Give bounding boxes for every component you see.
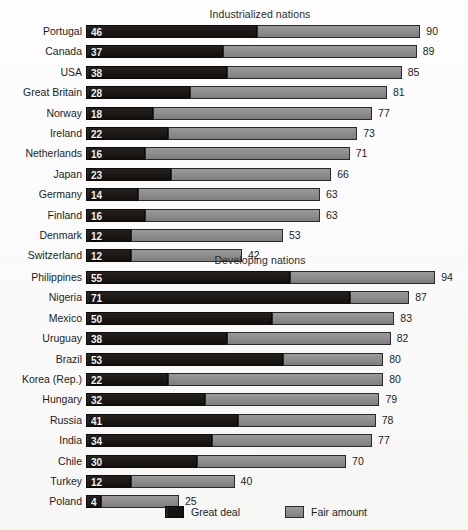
bar-segment-fair-amount xyxy=(283,353,383,366)
bar-segment-fair-amount xyxy=(223,45,416,58)
chart-row: USA3885 xyxy=(0,66,468,79)
bar-value-great-deal: 53 xyxy=(91,354,102,367)
row-label-germany: Germany xyxy=(0,188,82,201)
bar-value-great-deal: 37 xyxy=(91,46,102,59)
bar-segment-great-deal: 14 xyxy=(86,188,138,201)
legend-item-fair-amount: Fair amount xyxy=(285,505,367,519)
bar-value-great-deal: 28 xyxy=(91,87,102,100)
bar-segment-great-deal: 34 xyxy=(86,434,212,447)
bar-value-great-deal: 12 xyxy=(91,230,102,243)
legend-label-fair-amount: Fair amount xyxy=(311,506,367,518)
bar-segment-fair-amount xyxy=(212,434,372,447)
bar-segment-fair-amount xyxy=(197,455,346,468)
bar-total-value: 70 xyxy=(352,455,364,468)
bar-segment-fair-amount xyxy=(205,393,380,406)
bar-stack: 32 xyxy=(86,393,379,406)
bar-stack: 18 xyxy=(86,107,372,120)
bar-segment-great-deal: 55 xyxy=(86,271,290,284)
bar-stack: 22 xyxy=(86,373,383,386)
bar-segment-great-deal: 53 xyxy=(86,353,283,366)
bar-segment-fair-amount xyxy=(145,209,320,222)
stacked-bar-chart: Industrialized nationsPortugal4690Canada… xyxy=(0,0,468,530)
chart-row: Great Britain2881 xyxy=(0,86,468,99)
bar-stack: 46 xyxy=(86,25,420,38)
bar-total-value: 40 xyxy=(241,475,253,488)
bar-total-value: 66 xyxy=(337,168,349,181)
bar-total-value: 83 xyxy=(400,312,412,325)
row-label-chile: Chile xyxy=(0,455,82,468)
bar-total-value: 81 xyxy=(393,86,405,99)
chart-row: Brazil5380 xyxy=(0,353,468,366)
legend-swatch-great-deal-icon xyxy=(165,506,184,518)
row-label-switzerland: Switzerland xyxy=(0,249,82,262)
row-label-brazil: Brazil xyxy=(0,353,82,366)
bar-value-great-deal: 46 xyxy=(91,26,102,39)
bar-segment-great-deal: 22 xyxy=(86,373,168,386)
bar-value-great-deal: 30 xyxy=(91,456,102,469)
bar-segment-fair-amount xyxy=(131,475,235,488)
bar-segment-great-deal: 38 xyxy=(86,332,227,345)
bar-segment-great-deal: 50 xyxy=(86,312,272,325)
bar-segment-fair-amount xyxy=(145,147,349,160)
bar-total-value: 94 xyxy=(441,271,453,284)
bar-stack: 38 xyxy=(86,332,391,345)
bar-segment-fair-amount xyxy=(171,168,331,181)
bar-stack: 22 xyxy=(86,127,357,140)
chart-row: Korea (Rep.)2280 xyxy=(0,373,468,386)
row-label-mexico: Mexico xyxy=(0,312,82,325)
row-label-portugal: Portugal xyxy=(0,25,82,38)
row-label-great-britain: Great Britain xyxy=(0,86,82,99)
bar-segment-fair-amount xyxy=(272,312,395,325)
bar-stack: 50 xyxy=(86,312,394,325)
group-title-developing: Developing nations xyxy=(86,254,434,266)
bar-stack: 12 xyxy=(86,229,283,242)
bar-value-great-deal: 71 xyxy=(91,292,102,305)
bar-value-great-deal: 34 xyxy=(91,435,102,448)
bar-segment-fair-amount xyxy=(153,107,372,120)
bar-segment-fair-amount xyxy=(227,66,402,79)
bar-value-great-deal: 12 xyxy=(91,476,102,489)
bar-stack: 53 xyxy=(86,353,383,366)
bar-value-great-deal: 14 xyxy=(91,189,102,202)
bar-segment-great-deal: 18 xyxy=(86,107,153,120)
bar-stack: 34 xyxy=(86,434,372,447)
row-label-hungary: Hungary xyxy=(0,393,82,406)
chart-row: Mexico5083 xyxy=(0,312,468,325)
bar-segment-great-deal: 23 xyxy=(86,168,171,181)
chart-row: Canada3789 xyxy=(0,45,468,58)
bar-total-value: 77 xyxy=(378,107,390,120)
row-label-philippines: Philippines xyxy=(0,271,82,284)
bar-value-great-deal: 55 xyxy=(91,272,102,285)
legend-label-great-deal: Great deal xyxy=(191,506,240,518)
bar-segment-fair-amount xyxy=(227,332,390,345)
bar-segment-great-deal: 16 xyxy=(86,209,145,222)
bar-value-great-deal: 23 xyxy=(91,169,102,182)
bar-total-value: 63 xyxy=(326,188,338,201)
bar-stack: 28 xyxy=(86,86,387,99)
bar-stack: 12 xyxy=(86,475,235,488)
bar-value-great-deal: 50 xyxy=(91,313,102,326)
bar-stack: 16 xyxy=(86,209,320,222)
legend-swatch-fair-amount-icon xyxy=(285,506,304,518)
bar-value-great-deal: 22 xyxy=(91,374,102,387)
chart-row: Denmark1253 xyxy=(0,229,468,242)
bar-value-great-deal: 22 xyxy=(91,128,102,141)
chart-row: Philippines5594 xyxy=(0,271,468,284)
bar-segment-great-deal: 12 xyxy=(86,229,131,242)
bar-stack: 55 xyxy=(86,271,435,284)
chart-row: Nigeria7187 xyxy=(0,291,468,304)
row-label-norway: Norway xyxy=(0,107,82,120)
chart-row: Germany1463 xyxy=(0,188,468,201)
row-label-usa: USA xyxy=(0,66,82,79)
bar-segment-fair-amount xyxy=(257,25,420,38)
chart-row: Norway1877 xyxy=(0,107,468,120)
row-label-uruguay: Uruguay xyxy=(0,332,82,345)
bar-value-great-deal: 16 xyxy=(91,210,102,223)
bar-stack: 71 xyxy=(86,291,409,304)
chart-row: Finland1663 xyxy=(0,209,468,222)
chart-row: Netherlands1671 xyxy=(0,147,468,160)
row-label-japan: Japan xyxy=(0,168,82,181)
chart-legend: Great deal Fair amount xyxy=(0,505,468,523)
row-label-turkey: Turkey xyxy=(0,475,82,488)
row-label-denmark: Denmark xyxy=(0,229,82,242)
